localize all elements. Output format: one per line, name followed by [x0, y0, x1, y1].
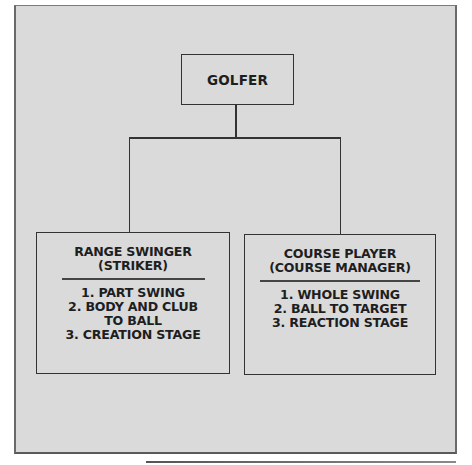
connector-horizontal	[129, 137, 341, 139]
child-node-course-player: COURSE PLAYER (COURSE MANAGER) 1. WHOLE …	[244, 234, 436, 375]
connector-left-down	[129, 137, 131, 233]
root-node-label: GOLFER	[207, 72, 268, 88]
connector-root-down	[235, 104, 237, 139]
child-node-range-swinger: RANGE SWINGER (STRIKER) 1. PART SWING 2.…	[36, 232, 230, 374]
child-node-item: 2. BODY AND CLUB	[37, 300, 229, 314]
child-node-subtitle: (COURSE MANAGER)	[245, 261, 435, 275]
bottom-rule	[146, 461, 456, 463]
child-node-title: COURSE PLAYER	[245, 247, 435, 261]
root-node-golfer: GOLFER	[181, 54, 294, 105]
child-node-item: 2. BALL TO TARGET	[245, 302, 435, 316]
child-node-item: TO BALL	[37, 314, 229, 328]
child-node-item: 1. WHOLE SWING	[245, 288, 435, 302]
child-node-item: 1. PART SWING	[37, 286, 229, 300]
title-divider	[260, 280, 420, 282]
child-node-item: 3. REACTION STAGE	[245, 316, 435, 330]
connector-right-down	[340, 137, 342, 235]
title-divider	[62, 278, 205, 280]
child-node-item: 3. CREATION STAGE	[37, 328, 229, 342]
child-node-title: RANGE SWINGER	[37, 245, 229, 259]
child-node-subtitle: (STRIKER)	[37, 259, 229, 273]
